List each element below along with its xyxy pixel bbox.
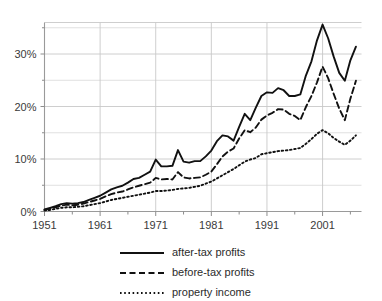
x-axis-tick-label: 1961 — [88, 219, 112, 231]
line-chart: 0%10%20%30% 195119611971198119912001 aft… — [0, 0, 382, 301]
chart-container: 0%10%20%30% 195119611971198119912001 aft… — [0, 0, 382, 301]
x-axis-tick-labels: 195119611971198119912001 — [32, 219, 335, 231]
series-line-solid — [45, 25, 356, 210]
x-axis-tick-label: 1951 — [32, 219, 56, 231]
tick-marks — [41, 28, 351, 216]
x-axis-tick-label: 1981 — [199, 219, 223, 231]
series-line-dashed — [45, 67, 356, 210]
x-axis-tick-label: 1991 — [255, 219, 279, 231]
legend-label: property income — [172, 286, 251, 298]
legend-label: after-tax profits — [172, 246, 246, 258]
y-axis-tick-label: 0% — [21, 206, 37, 218]
y-axis-tick-label: 10% — [14, 153, 36, 165]
y-axis-tick-labels: 0%10%20%30% — [14, 48, 36, 218]
x-axis-tick-label: 1971 — [143, 219, 167, 231]
y-axis-tick-label: 30% — [14, 48, 36, 60]
legend-label: before-tax profits — [172, 266, 255, 278]
x-axis-tick-label: 2001 — [310, 219, 334, 231]
y-axis-tick-label: 20% — [14, 101, 36, 113]
chart-legend: after-tax profitsbefore-tax profitsprope… — [120, 246, 255, 298]
data-series-group — [45, 25, 356, 211]
